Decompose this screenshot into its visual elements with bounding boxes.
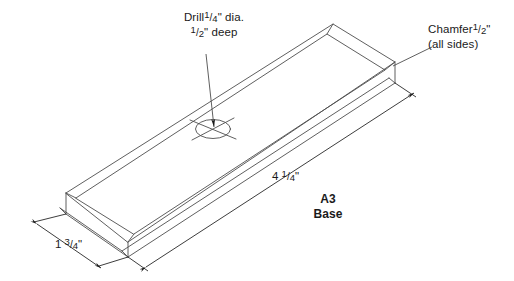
drill-note-line-1: Drill1/4" dia. [154, 10, 274, 25]
drill-note: Drill1/4" dia. 1/2" deep [154, 10, 274, 40]
leader-lines [206, 47, 432, 127]
width-tail: " [78, 238, 82, 250]
drill-note-line-2: 1/2" deep [154, 25, 274, 40]
length-dimension-text: 4 1/4" [272, 170, 299, 182]
width-fraction: 3/4 [65, 239, 78, 250]
drill-depth-fraction: 1/2 [191, 25, 204, 40]
width-ext-left [34, 214, 66, 222]
drill-dia-denominator: 4 [212, 13, 217, 24]
length-ext-right [395, 83, 416, 97]
chamfer-note-leader [393, 47, 432, 66]
drill-depth-denominator: 2 [199, 28, 204, 39]
fr-chamfer-link-right [389, 78, 395, 83]
part-label: A3 Base [296, 192, 360, 222]
drill-dia-fraction: 1/4 [204, 10, 217, 25]
drill-note-leader [206, 54, 214, 127]
chamfer-denominator: 2 [481, 25, 486, 36]
width-ext-front [99, 257, 128, 266]
length-tail: " [295, 170, 299, 182]
chamfer-fraction: 1/2 [473, 22, 486, 37]
drill-note-word: Drill [184, 11, 204, 23]
drill-note-line-1-tail: " dia. [218, 11, 244, 23]
length-ext-front [128, 257, 148, 271]
chamfer-note: Chamfer1/2" (all sides) [428, 22, 490, 52]
technical-drawing-canvas: Drill1/4" dia. 1/2" deep Chamfer1/2" (al… [0, 0, 514, 281]
part-label-name: Base [296, 207, 360, 222]
chamfer-note-line-1: Chamfer1/2" [428, 22, 490, 37]
block-solid [60, 24, 395, 257]
chamfer-note-line-2: (all sides) [428, 37, 490, 52]
drill-note-line-2-tail: " deep [204, 26, 237, 38]
length-denominator: 4 [290, 172, 295, 183]
chamfer-corner-front [128, 234, 134, 242]
front-right-bottom-chamfer [122, 78, 389, 251]
width-denominator: 4 [73, 240, 78, 251]
part-label-id: A3 [296, 192, 360, 207]
length-fraction: 1/4 [282, 171, 295, 182]
chamfer-note-word: Chamfer [428, 23, 473, 35]
chamfer-note-line-1-tail: " [486, 23, 490, 35]
width-dimension-text: 1 3/4" [55, 238, 82, 250]
front-right-face-bottom [128, 83, 395, 257]
